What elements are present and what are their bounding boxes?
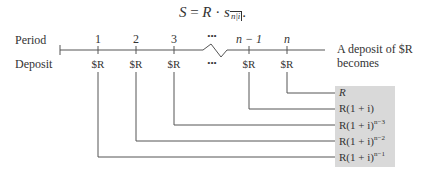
deposit-1: $R xyxy=(83,58,113,70)
caption-line-1: A deposit of $R xyxy=(337,42,413,57)
period-row-label: Period xyxy=(15,33,46,48)
result-period-n-minus-1: R(1 + i) xyxy=(339,102,374,114)
deposit-3: $R xyxy=(159,58,189,70)
period-n: n xyxy=(272,32,302,47)
period-2: 2 xyxy=(121,32,151,47)
caption-line-2: becomes xyxy=(337,56,379,71)
period-n-minus-1: n − 1 xyxy=(229,32,269,47)
period-ellipsis: ••• xyxy=(197,31,227,41)
result-period-3: R(1 + i)n−3 xyxy=(339,118,385,131)
deposit-n: $R xyxy=(272,58,302,70)
deposit-row-label: Deposit xyxy=(15,57,52,72)
period-3: 3 xyxy=(159,32,189,47)
period-1: 1 xyxy=(83,32,113,47)
result-period-n: R xyxy=(339,86,346,98)
deposit-2: $R xyxy=(121,58,151,70)
result-period-1: R(1 + i)n−1 xyxy=(339,150,385,163)
deposit-n-minus-1: $R xyxy=(234,58,264,70)
deposit-ellipsis: ••• xyxy=(197,58,227,68)
result-period-2: R(1 + i)n−2 xyxy=(339,134,385,147)
